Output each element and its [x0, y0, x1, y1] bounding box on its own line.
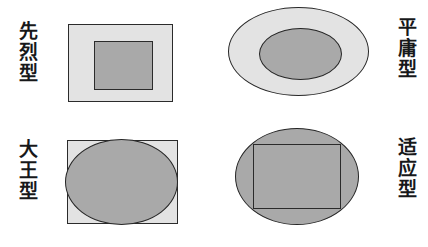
inner-ellipse-dawang — [65, 139, 178, 225]
panel-pingyong: 平庸型 — [214, 0, 428, 123]
outer-ellipse-pingyong — [228, 7, 369, 96]
panel-dawang: 大王型 — [0, 124, 214, 247]
outer-ellipse-shiying — [235, 128, 359, 225]
panel-xianlie: 先烈型 — [0, 0, 214, 123]
shape-group-pingyong — [214, 0, 428, 123]
inner-rectangle-shiying — [253, 144, 341, 209]
shape-group-dawang — [0, 124, 214, 247]
shape-group-shiying — [214, 124, 428, 247]
inner-rectangle-xianlie — [94, 41, 153, 90]
figure-root: 先烈型 平庸型 大王型 适应型 — [0, 0, 428, 247]
shape-group-xianlie — [0, 0, 214, 123]
outer-rectangle-dawang — [67, 140, 178, 224]
inner-ellipse-pingyong — [259, 28, 342, 80]
outer-rectangle-xianlie — [68, 24, 173, 102]
panel-shiying: 适应型 — [214, 124, 428, 247]
